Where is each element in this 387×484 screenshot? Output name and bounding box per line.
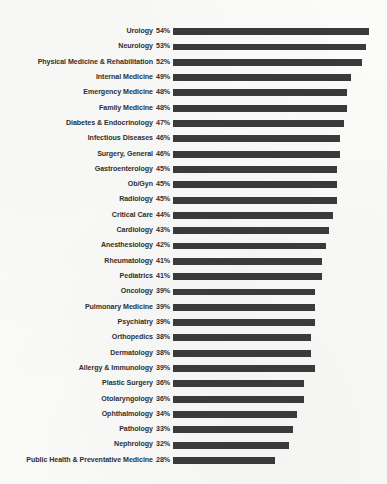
bar-value-label: 46% — [156, 131, 171, 146]
bar-category-label: Emergency Medicine — [83, 85, 153, 100]
bar-category-label: Ophthalmology — [102, 407, 153, 422]
bar-category-label: Family Medicine — [99, 101, 153, 116]
bar-value-label: 36% — [156, 392, 171, 407]
bar-row: Dermatology38% — [0, 346, 387, 361]
bar-row: Cardiology43% — [0, 223, 387, 238]
bar-fill — [173, 411, 297, 418]
bar-category-label: Psychiatry — [118, 315, 153, 330]
bar-category-label: Neurology — [118, 39, 153, 54]
bar-category-label: Cardiology — [116, 223, 153, 238]
bar-row: Psychiatry39% — [0, 315, 387, 330]
bar-category-label: Dermatology — [110, 346, 153, 361]
bar-value-label: 45% — [156, 192, 171, 207]
bar-fill — [173, 426, 293, 433]
bar-fill — [173, 396, 304, 403]
bar-category-label: Critical Care — [112, 208, 153, 223]
bar-fill — [173, 120, 344, 127]
bar-row: Gastroenterology45% — [0, 162, 387, 177]
bar-row: Surgery, General46% — [0, 147, 387, 162]
bar-value-label: 48% — [156, 101, 171, 116]
bar-fill — [173, 243, 326, 250]
bar-category-label: Diabetes & Endocrinology — [66, 116, 153, 131]
bar-value-label: 38% — [156, 346, 171, 361]
bar-category-label: Radiology — [119, 192, 153, 207]
bar-row: Ob/Gyn45% — [0, 177, 387, 192]
bar-fill — [173, 105, 347, 112]
bar-fill — [173, 442, 289, 449]
bar-row: Ophthalmology34% — [0, 407, 387, 422]
bar-category-label: Internal Medicine — [96, 70, 153, 85]
bar-row: Pulmonary Medicine39% — [0, 300, 387, 315]
bar-row: Pediatrics41% — [0, 269, 387, 284]
bar-row: Internal Medicine49% — [0, 70, 387, 85]
bar-fill — [173, 457, 275, 464]
bar-fill — [173, 380, 304, 387]
bar-value-label: 45% — [156, 162, 171, 177]
bar-category-label: Surgery, General — [97, 147, 153, 162]
bar-value-label: 36% — [156, 376, 171, 391]
bar-value-label: 52% — [156, 55, 171, 70]
bar-value-label: 34% — [156, 407, 171, 422]
bar-row: Anesthesiology42% — [0, 238, 387, 253]
bar-value-label: 39% — [156, 284, 171, 299]
bar-category-label: Anesthesiology — [101, 238, 153, 253]
bar-fill — [173, 197, 337, 204]
bar-category-label: Urology — [127, 24, 153, 39]
bar-fill — [173, 334, 311, 341]
bar-fill — [173, 319, 315, 326]
bar-row: Otolaryngology36% — [0, 392, 387, 407]
bar-value-label: 33% — [156, 422, 171, 437]
bar-fill — [173, 212, 333, 219]
bar-row: Orthopedics38% — [0, 330, 387, 345]
bar-row: Public Health & Preventative Medicine28% — [0, 453, 387, 468]
bar-fill — [173, 89, 347, 96]
bar-row: Critical Care44% — [0, 208, 387, 223]
bar-category-label: Pathology — [119, 422, 153, 437]
bar-category-label: Allergy & Immunology — [79, 361, 153, 376]
bar-row: Neurology53% — [0, 39, 387, 54]
bar-value-label: 32% — [156, 437, 171, 452]
bar-fill — [173, 258, 322, 265]
bar-value-label: 39% — [156, 300, 171, 315]
bar-value-label: 28% — [156, 453, 171, 468]
bar-fill — [173, 227, 329, 234]
bar-category-label: Plastic Surgery — [102, 376, 153, 391]
bar-value-label: 47% — [156, 116, 171, 131]
bar-value-label: 41% — [156, 254, 171, 269]
bar-category-label: Pediatrics — [120, 269, 153, 284]
bar-category-label: Otolaryngology — [101, 392, 153, 407]
bar-category-label: Rheumatology — [104, 254, 153, 269]
bar-value-label: 38% — [156, 330, 171, 345]
bar-value-label: 42% — [156, 238, 171, 253]
bar-category-label: Gastroenterology — [95, 162, 153, 177]
bar-category-label: Nephrology — [114, 437, 153, 452]
bar-value-label: 44% — [156, 208, 171, 223]
bar-row: Plastic Surgery36% — [0, 376, 387, 391]
bar-row: Family Medicine48% — [0, 101, 387, 116]
bar-value-label: 46% — [156, 147, 171, 162]
bar-value-label: 49% — [156, 70, 171, 85]
bar-row: Emergency Medicine48% — [0, 85, 387, 100]
bar-fill — [173, 151, 340, 158]
bar-row: Pathology33% — [0, 422, 387, 437]
bar-fill — [173, 44, 366, 51]
bar-row: Allergy & Immunology39% — [0, 361, 387, 376]
bar-fill — [173, 350, 311, 357]
bar-row: Urology54% — [0, 24, 387, 39]
bar-fill — [173, 304, 315, 311]
bar-fill — [173, 365, 315, 372]
bar-fill — [173, 289, 315, 296]
bar-row: Physical Medicine & Rehabilitation52% — [0, 55, 387, 70]
bar-row: Nephrology32% — [0, 437, 387, 452]
bar-value-label: 45% — [156, 177, 171, 192]
bar-row: Diabetes & Endocrinology47% — [0, 116, 387, 131]
bar-fill — [173, 181, 337, 188]
bar-category-label: Infectious Diseases — [88, 131, 153, 146]
bar-value-label: 53% — [156, 39, 171, 54]
bar-category-label: Ob/Gyn — [128, 177, 153, 192]
horizontal-bar-chart: Urology54%Neurology53%Physical Medicine … — [0, 24, 387, 468]
bar-value-label: 39% — [156, 361, 171, 376]
bar-row: Infectious Diseases46% — [0, 131, 387, 146]
bar-value-label: 48% — [156, 85, 171, 100]
bar-category-label: Physical Medicine & Rehabilitation — [38, 55, 153, 70]
